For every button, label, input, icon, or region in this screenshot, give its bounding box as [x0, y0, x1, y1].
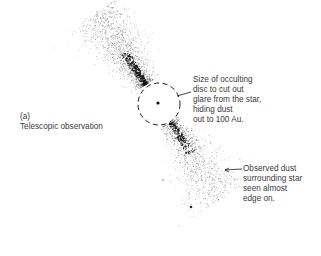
central-star-icon [156, 101, 159, 104]
annotation-line: disc to cut out [193, 85, 261, 95]
observed-dust-annotation: Observed dust surrounding star seen almo… [243, 164, 302, 204]
annotation-line: seen almost [243, 184, 302, 194]
dust-disk-diagram: (a) Telescopic observation Size of occul… [0, 0, 321, 256]
panel-title: Telescopic observation [20, 122, 103, 132]
annotation-line: out to 100 Au. [193, 115, 261, 125]
background-star-icon [190, 206, 193, 209]
background-star-icon [162, 179, 163, 180]
occulting-disc-pointer-line [177, 92, 191, 96]
panel-caption: (a) Telescopic observation [20, 112, 103, 132]
annotation-line: glare from the star, [193, 95, 261, 105]
annotation-line: Observed dust [243, 164, 302, 174]
annotation-line: hiding dust [193, 105, 261, 115]
annotation-line: Size of occulting [193, 75, 261, 85]
annotation-line: edge on. [243, 194, 302, 204]
annotation-line: surrounding star [243, 174, 302, 184]
occulting-disc-annotation: Size of occulting disc to cut out glare … [193, 75, 261, 125]
background-star-icon [179, 226, 180, 227]
dust-disk-upper-lobe [54, 0, 160, 92]
panel-label: (a) [20, 112, 103, 122]
